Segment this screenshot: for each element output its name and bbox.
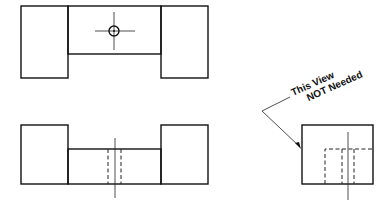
side-hidden-step (325, 149, 373, 184)
top-middle-web (68, 6, 161, 54)
front-left-block (21, 125, 68, 184)
top-right-block (161, 6, 208, 78)
leader-arrowhead-icon (295, 142, 301, 149)
annotation: This View NOT Needed (262, 58, 364, 149)
front-view (21, 125, 208, 198)
front-middle-web (68, 149, 161, 184)
side-outline (302, 125, 373, 184)
right-side-view (302, 125, 373, 200)
top-view (21, 6, 208, 78)
leader-line (262, 97, 299, 146)
top-left-block (21, 6, 68, 78)
front-right-block (161, 125, 208, 184)
orthographic-drawing: This View NOT Needed (0, 0, 392, 212)
